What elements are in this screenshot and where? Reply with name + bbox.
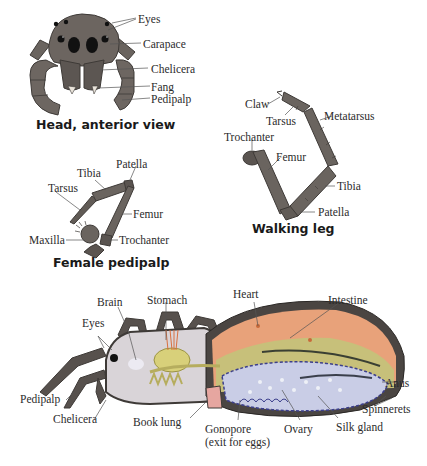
diagram-artwork: [0, 0, 427, 466]
label-pedipalp-tibia: Tibia: [77, 167, 101, 179]
label-body-gonopore: Gonopore: [205, 423, 251, 435]
label-leg-tarsus: Tarsus: [266, 115, 296, 127]
label-pedipalp-maxilla: Maxilla: [29, 234, 65, 246]
label-pedipalp-trochanter: Trochanter: [119, 234, 169, 246]
label-leg-metatarsus: Metatarsus: [324, 110, 374, 122]
label-head-eyes: Eyes: [138, 13, 160, 25]
label-leg-femur: Femur: [276, 151, 306, 163]
label-body-eyes: Eyes: [82, 317, 104, 329]
label-body-brain: Brain: [97, 296, 123, 308]
label-head-fang: Fang: [151, 81, 174, 93]
label-body-book-lung: Book lung: [133, 416, 181, 428]
label-head-pedipalp: Pedipalp: [151, 93, 191, 105]
label-body-chelicera: Chelicera: [53, 413, 97, 425]
label-body-anus: Anus: [385, 377, 409, 389]
label-body-silk-gland: Silk gland: [336, 421, 383, 433]
label-pedipalp-femur: Femur: [133, 208, 163, 220]
label-leg-claw: Claw: [245, 98, 269, 110]
label-body-gonopore-note: (exit for eggs): [205, 436, 270, 448]
caption-walking-leg: Walking leg: [252, 221, 335, 236]
caption-female-pedipalp: Female pedipalp: [53, 255, 169, 270]
label-leg-patella: Patella: [318, 206, 349, 218]
label-pedipalp-tarsus: Tarsus: [48, 182, 78, 194]
head-anterior-illustration: [30, 14, 150, 115]
label-head-carapace: Carapace: [143, 38, 186, 50]
caption-head-anterior-view: Head, anterior view: [36, 117, 175, 132]
label-body-stomach: Stomach: [147, 294, 187, 306]
label-head-chelicera: Chelicera: [151, 63, 195, 75]
label-pedipalp-patella: Patella: [116, 158, 147, 170]
label-body-heart: Heart: [233, 288, 259, 300]
label-body-ovary: Ovary: [284, 423, 313, 435]
label-body-intestine: Intestine: [328, 294, 368, 306]
label-leg-trochanter: Trochanter: [224, 131, 274, 143]
label-body-spinnerets: Spinnerets: [362, 403, 411, 415]
label-leg-tibia: Tibia: [337, 180, 361, 192]
spider-anatomy-diagram: Eyes Carapace Chelicera Fang Pedipalp He…: [0, 0, 427, 466]
label-body-pedipalp: Pedipalp: [20, 393, 60, 405]
